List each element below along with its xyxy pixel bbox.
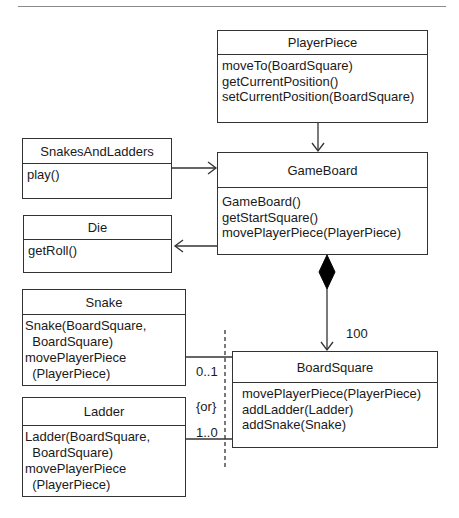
operation: addSnake(Snake) [242, 417, 437, 433]
class-operations: getRoll() [24, 240, 171, 259]
operation: getRoll() [28, 243, 171, 259]
multiplicity-snake: 0..1 [196, 364, 218, 379]
class-operations: Ladder(BoardSquare, BoardSquare) movePla… [23, 426, 185, 493]
operation: moveTo(BoardSquare) [222, 58, 427, 74]
class-board-square: BoardSquare movePlayerPiece(PlayerPiece)… [232, 351, 438, 448]
class-name: Ladder [23, 398, 185, 426]
operation: GameBoard() [222, 194, 427, 210]
operation: movePlayerPiece [25, 461, 185, 477]
class-player-piece: PlayerPiece moveTo(BoardSquare) getCurre… [217, 30, 428, 123]
operation: setCurrentPosition(BoardSquare) [222, 89, 427, 105]
class-name: GameBoard [218, 153, 427, 188]
class-name: Die [24, 216, 171, 240]
operation: addLadder(Ladder) [242, 402, 437, 418]
class-name: PlayerPiece [218, 31, 427, 55]
multiplicity-ladder: 1..0 [196, 425, 218, 440]
operation: movePlayerPiece [25, 350, 185, 366]
class-name: BoardSquare [233, 352, 437, 383]
class-operations: GameBoard() getStartSquare() movePlayerP… [218, 188, 427, 241]
operation: Snake(BoardSquare, [25, 318, 185, 334]
class-name: Snake [23, 290, 185, 315]
class-snake: Snake Snake(BoardSquare, BoardSquare) mo… [22, 289, 186, 386]
class-operations: moveTo(BoardSquare) getCurrentPosition()… [218, 55, 427, 105]
class-operations: movePlayerPiece(PlayerPiece) addLadder(L… [233, 383, 437, 433]
class-ladder: Ladder Ladder(BoardSquare, BoardSquare) … [22, 397, 186, 497]
operation: (PlayerPiece) [25, 366, 185, 382]
operation: Ladder(BoardSquare, [25, 429, 185, 445]
class-die: Die getRoll() [23, 215, 172, 273]
operation: movePlayerPiece(PlayerPiece) [242, 386, 437, 402]
or-constraint: {or} [196, 399, 216, 414]
operation: getStartSquare() [222, 210, 427, 226]
multiplicity-board-square: 100 [346, 326, 368, 341]
class-name: SnakesAndLadders [23, 139, 171, 164]
operation: getCurrentPosition() [222, 74, 427, 90]
operation: movePlayerPiece(PlayerPiece) [222, 225, 427, 241]
class-operations: Snake(BoardSquare, BoardSquare) movePlay… [23, 315, 185, 382]
operation: (PlayerPiece) [25, 477, 185, 493]
class-operations: play() [23, 164, 171, 183]
operation: BoardSquare) [25, 334, 185, 350]
operation: play() [27, 167, 171, 183]
operation: BoardSquare) [25, 445, 185, 461]
class-game-board: GameBoard GameBoard() getStartSquare() m… [217, 152, 428, 255]
class-snakes-and-ladders: SnakesAndLadders play() [22, 138, 172, 199]
